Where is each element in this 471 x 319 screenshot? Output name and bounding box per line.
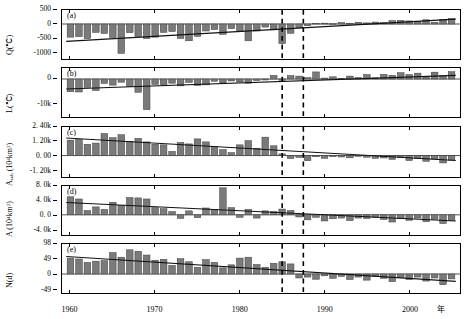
- bar: [194, 267, 201, 274]
- y-tick-label: -1. 20k: [30, 167, 51, 175]
- bar: [143, 79, 150, 110]
- bar: [84, 144, 91, 155]
- bar: [177, 215, 184, 219]
- panel-b: (b): [61, 67, 461, 118]
- bar: [135, 79, 142, 92]
- x-tick-mark: [154, 126, 155, 130]
- bar: [237, 258, 244, 274]
- y-tick-mark: [53, 23, 57, 24]
- bar: [304, 274, 311, 277]
- bar: [160, 79, 167, 85]
- x-tick-mark: [409, 174, 410, 178]
- y-axis-ticks: 98490-49: [0, 243, 57, 294]
- y-tick-label: 98: [44, 239, 52, 247]
- bar: [203, 142, 210, 156]
- y-axis-ticks: 0-10k: [0, 67, 57, 118]
- x-tick-mark: [409, 67, 410, 71]
- bar: [194, 215, 201, 218]
- bar: [160, 145, 167, 156]
- bar: [110, 24, 117, 37]
- bar: [296, 76, 303, 79]
- x-tick-mark: [239, 243, 240, 247]
- x-tick-mark: [154, 290, 155, 294]
- bar: [169, 265, 176, 274]
- x-tick-mark: [69, 232, 70, 236]
- bar: [211, 262, 218, 274]
- bar: [237, 145, 244, 156]
- bar: [321, 215, 328, 221]
- x-tick-mark: [154, 243, 155, 247]
- y-tick-label: 8. 0k: [36, 181, 51, 189]
- bar: [152, 208, 159, 215]
- x-tick-label: 1970: [147, 305, 163, 314]
- bar: [304, 156, 311, 161]
- y-tick-mark: [53, 230, 57, 231]
- y-tick-mark: [53, 78, 57, 79]
- bar: [93, 207, 100, 215]
- bar: [338, 156, 345, 157]
- bar: [169, 151, 176, 155]
- bar: [84, 262, 91, 274]
- plot-area: [62, 244, 460, 293]
- y-tick-label: -1000: [34, 49, 52, 57]
- series-canvas: [62, 68, 460, 117]
- x-tick-mark: [324, 114, 325, 118]
- bar: [194, 139, 201, 156]
- x-tick-mark: [239, 114, 240, 118]
- y-tick-label: 0. 00: [36, 152, 51, 160]
- y-tick-label: 0: [47, 20, 51, 28]
- bar: [414, 73, 421, 79]
- bar: [237, 24, 244, 31]
- y-tick-label: 4. 0k: [36, 196, 51, 204]
- bar: [126, 141, 133, 155]
- bar: [448, 274, 455, 279]
- bar: [253, 79, 260, 80]
- bar: [186, 211, 193, 215]
- bar: [296, 24, 303, 28]
- bar: [313, 72, 320, 79]
- bar: [177, 259, 184, 274]
- x-tick-mark: [324, 243, 325, 247]
- x-tick-mark: [239, 232, 240, 236]
- bar: [67, 79, 74, 92]
- x-tick-mark: [324, 67, 325, 71]
- series-canvas: [62, 10, 460, 59]
- bar: [152, 79, 159, 84]
- bar: [423, 215, 430, 222]
- bar: [177, 24, 184, 39]
- bar: [313, 215, 320, 218]
- bar: [313, 274, 320, 279]
- bar: [84, 24, 91, 39]
- multi-panel-figure: Q(℃) L(℃) Asub (104km2) A (104km2) N(d) …: [0, 0, 471, 319]
- bar: [253, 215, 260, 218]
- y-tick-label: 49: [44, 255, 52, 263]
- bar: [330, 156, 337, 157]
- bar: [330, 77, 337, 79]
- x-tick-mark: [409, 243, 410, 247]
- bar: [101, 134, 108, 156]
- bar: [237, 215, 244, 218]
- bar: [414, 274, 421, 277]
- bar: [118, 135, 125, 156]
- y-tick-mark: [53, 258, 57, 259]
- x-tick-mark: [239, 67, 240, 71]
- x-tick-mark: [324, 56, 325, 60]
- y-tick-mark: [53, 243, 57, 244]
- bar: [169, 79, 176, 83]
- bar: [101, 24, 108, 34]
- bar: [152, 24, 159, 37]
- bar: [364, 274, 371, 280]
- bar: [321, 156, 328, 159]
- bar: [304, 215, 311, 220]
- bar: [440, 215, 447, 224]
- plot-area: [62, 10, 460, 59]
- x-tick-mark: [409, 290, 410, 294]
- bar: [262, 79, 269, 80]
- x-axis-unit-label: 年: [437, 305, 445, 314]
- bar: [431, 215, 438, 219]
- y-tick-label: 2. 40k: [32, 122, 51, 130]
- bar: [414, 215, 421, 218]
- bar: [101, 209, 108, 214]
- bar: [262, 24, 269, 27]
- bar: [118, 79, 125, 82]
